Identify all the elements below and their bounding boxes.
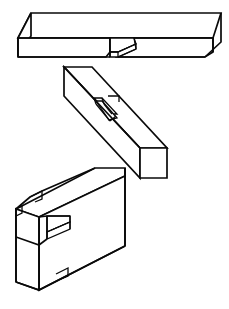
joinery-drawing: Exploded isometric joinery drawing Three… (0, 0, 229, 309)
top-bar-top-face (18, 13, 221, 38)
figure-root: Exploded isometric joinery drawing Three… (0, 0, 229, 309)
middle-bar-end-face (140, 148, 167, 178)
top-bar-front-face-left (18, 38, 110, 57)
bottom-block-shoulder-step-top (39, 216, 47, 217)
part-top-bar (18, 13, 221, 57)
